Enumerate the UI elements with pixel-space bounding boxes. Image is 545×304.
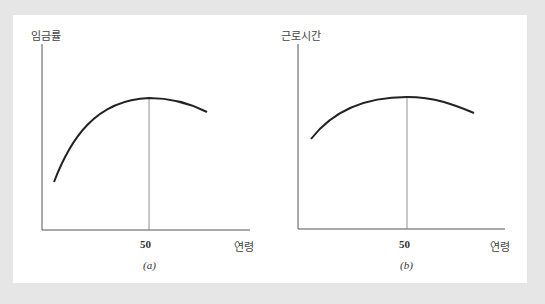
chart-b-caption: (b) xyxy=(400,259,413,271)
chart-a-curve xyxy=(54,98,207,182)
chart-b-x-label: 연령 xyxy=(490,238,510,254)
chart-b-curve xyxy=(311,97,474,139)
chart-a-caption: (a) xyxy=(143,259,156,271)
chart-a-y-label: 임금률 xyxy=(31,27,61,43)
chart-a xyxy=(42,44,250,230)
chart-b-y-label: 근로시간 xyxy=(281,27,321,43)
chart-b-x-tick: 50 xyxy=(399,238,410,250)
chart-a-x-label: 연령 xyxy=(234,238,254,254)
chart-b xyxy=(298,44,505,229)
chart-a-x-tick: 50 xyxy=(140,238,151,250)
chart-graphics xyxy=(0,0,545,304)
